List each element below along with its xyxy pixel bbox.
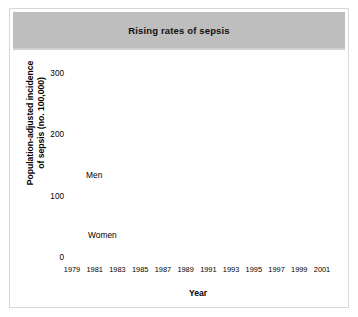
chart-title-band: Rising rates of sepsis	[13, 12, 345, 50]
x-tick-label: 2001	[307, 265, 337, 274]
figure-container: Rising rates of sepsis Population-adjust…	[0, 0, 358, 317]
figure-frame	[9, 8, 349, 308]
y-tick-label: 200	[38, 130, 64, 139]
chart-title: Rising rates of sepsis	[128, 25, 230, 36]
y-tick-label: 100	[38, 192, 64, 201]
y-tick-label: 300	[38, 69, 64, 78]
y-axis-label-line2: of sepsis (no. 100,000)	[36, 77, 46, 169]
series-label-men: Men	[86, 170, 102, 180]
x-axis-label: Year	[72, 288, 324, 298]
y-tick-label: 0	[38, 253, 64, 262]
y-axis-label: Population-adjusted incidence of sepsis …	[25, 43, 47, 203]
series-label-women: Women	[88, 230, 117, 240]
y-axis-label-line1: Population-adjusted incidence	[25, 61, 35, 186]
